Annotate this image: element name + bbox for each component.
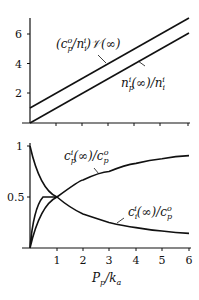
bottom-ytick-0-5: 0.5 (7, 191, 25, 204)
svg-text:5: 5 (159, 254, 166, 267)
figure: 2 4 6 (cpo/nii)𝒱(∞) npi(∞)/nii 0.5 1 1 2 (0, 0, 199, 300)
top-chart: 2 4 6 (cpo/nii)𝒱(∞) npi(∞)/nii (15, 18, 190, 126)
svg-text:1: 1 (54, 254, 61, 267)
top-ytick-2: 2 (15, 87, 22, 100)
label-cp-rising: cpi(∞)/cpo (64, 148, 109, 165)
bottom-xtick-labels: 1 2 3 4 5 6 (54, 254, 193, 267)
top-ytick-4: 4 (15, 58, 22, 71)
bottom-ytick-1: 1 (16, 140, 23, 153)
label-volume: (cpo/nii)𝒱(∞) (56, 36, 121, 53)
svg-text:3: 3 (106, 254, 113, 267)
svg-text:6: 6 (186, 254, 193, 267)
label-leader-rising (94, 168, 99, 174)
series-cp-rising (30, 156, 189, 248)
label-leader-falling (117, 218, 124, 223)
label-np: npi(∞)/nii (121, 75, 166, 92)
svg-text:2: 2 (80, 254, 87, 267)
x-axis-title: Pp/ka (91, 271, 122, 287)
label-ci-falling: cii(∞)/cpo (128, 204, 172, 221)
series-volume-line (30, 18, 189, 108)
top-ytick-6: 6 (15, 28, 22, 41)
bottom-chart: 0.5 1 1 2 3 4 5 6 Pp/ka cpi(∞)/cpo cii(∞… (7, 140, 193, 287)
series-ci-falling (30, 146, 189, 233)
label-leader-upper (98, 55, 106, 63)
label-leader-lower (138, 61, 145, 66)
svg-text:4: 4 (133, 254, 140, 267)
